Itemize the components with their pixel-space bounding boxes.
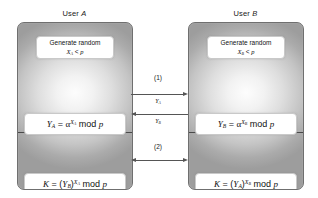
user-b-panel: Generate random XB < p YB = αXBmodp K = …: [188, 22, 304, 190]
user-b-generate-random-box: Generate random XB < p: [207, 36, 285, 59]
user-b-public-key-expression: YB = αXBmodp: [218, 119, 275, 129]
message-ba-arrowhead: [131, 112, 136, 116]
user-b-generate-label: Generate random: [221, 38, 272, 47]
user-a-pk-eq: =: [55, 119, 65, 129]
user-b-secret-key-box: K = (YA)XBmodp: [195, 173, 297, 190]
user-a-sk-exp-sub: A: [77, 181, 79, 186]
user-a-pk-exponent: XA: [70, 119, 76, 125]
user-a-header: User A: [17, 9, 132, 18]
user-b-header-var: B: [252, 9, 257, 18]
user-a-header-var: A: [81, 9, 86, 18]
user-b-public-key-box: YB = αXBmodp: [195, 113, 297, 135]
user-b-generate-modulus: p: [251, 48, 254, 55]
user-b-sk-mod: mod: [253, 179, 271, 189]
user-a-panel: Generate random XA < p YA = αXAmodp K = …: [17, 22, 133, 190]
shared-secret-arrowhead-right: [183, 158, 188, 162]
exchange-step2-label: (2): [140, 143, 176, 150]
message-ba-arrow-line: [136, 114, 188, 115]
user-a-sk-exponent: XA: [74, 179, 80, 185]
user-a-generate-random-box: Generate random XA < p: [36, 36, 114, 59]
user-b-header: User B: [188, 9, 303, 18]
exchange-step1-label: (1): [140, 74, 176, 81]
user-b-sk-eq: =: [220, 179, 230, 189]
user-a-sk-mod: mod: [82, 179, 100, 189]
user-b-sk-exponent: XB: [245, 179, 251, 185]
message-ab-arrow-line: [131, 94, 183, 95]
user-a-public-key-expression: YA = αXAmodp: [47, 119, 104, 129]
user-a-header-prefix: User: [62, 9, 81, 18]
user-a-secret-key-expression: K = (YB)XAmodp: [43, 179, 107, 189]
user-a-sk-modulus: p: [102, 179, 107, 189]
message-ba-sub: B: [159, 121, 161, 125]
message-ab-arrowhead: [183, 92, 188, 96]
user-b-header-prefix: User: [233, 9, 252, 18]
user-b-sk-modulus: p: [273, 179, 278, 189]
diffie-hellman-diagram: User A User B Generate random XA < p YA …: [0, 0, 318, 198]
user-a-pk-mod: mod: [79, 119, 97, 129]
user-a-generate-label: Generate random: [50, 38, 101, 47]
message-ba-label: YB: [140, 118, 176, 125]
user-a-pk-modulus: p: [99, 119, 104, 129]
user-a-generate-modulus: p: [80, 48, 83, 55]
user-a-generate-expression: XA < p: [66, 47, 83, 57]
user-a-sk-eq: =: [49, 179, 59, 189]
shared-secret-arrow-line: [136, 160, 183, 161]
user-b-pk-exp-sub: B: [245, 121, 247, 126]
message-ab-sub: A: [159, 101, 161, 105]
user-b-pk-mod: mod: [250, 119, 268, 129]
user-b-sk-exp-sub: B: [248, 181, 250, 186]
user-b-pk-eq: =: [226, 119, 236, 129]
user-a-pk-exp-sub: A: [74, 121, 76, 126]
user-a-public-key-box: YA = αXAmodp: [24, 113, 126, 135]
message-ab-label: YA: [140, 98, 176, 105]
user-a-secret-key-box: K = (YB)XAmodp: [24, 173, 126, 190]
user-b-generate-expression: XB < p: [237, 47, 254, 57]
user-b-pk-modulus: p: [270, 119, 275, 129]
shared-secret-arrowhead-left: [131, 158, 136, 162]
user-b-pk-exponent: XB: [241, 119, 247, 125]
user-b-secret-key-expression: K = (YA)XBmodp: [214, 179, 278, 189]
